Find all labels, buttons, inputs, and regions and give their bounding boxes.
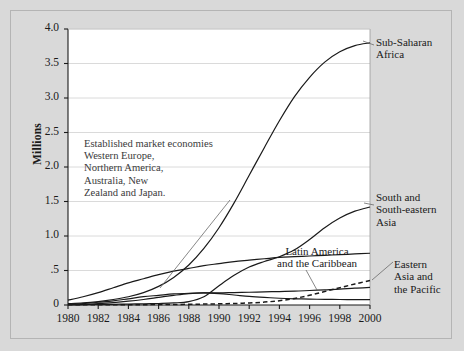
label-eastern-asia-line-2: Asia and [394,270,441,282]
y-tick-label: 4.0 [29,21,59,33]
label-eastern-asia-line-1: Eastern [394,258,441,270]
label-south-asia-line-3: Asia [376,216,436,228]
y-tick-label: 1.0 [29,228,59,240]
x-tick-label: 2000 [350,312,390,324]
label-south-asia-line-2: South-eastern [376,203,436,215]
y-tick-label: 0 [29,297,59,309]
y-tick-label: 3.5 [29,56,59,68]
series-label-latin-america-and-the-caribbean: Latin Americaand the Caribbean [277,245,357,270]
label-sub-saharan-africa-line-2: Africa [376,48,432,60]
figure-root: Millions 0.51.01.52.02.53.03.54.0 198019… [0,0,464,351]
label-sub-saharan-africa-line-1: Sub-Saharan [376,36,432,48]
annotation-eme-line-3: Northern America, [84,162,213,174]
label-south-asia-line-1: South and [376,191,436,203]
series-label-south-and-south-eastern-asia: South andSouth-easternAsia [376,191,436,228]
label-eastern-asia-line-3: the Pacific [394,283,441,295]
y-tick-label: .5 [29,263,59,275]
annotation-eme-line-2: Western Europe, [84,150,213,162]
y-tick-label: 2.0 [29,159,59,171]
y-tick-label: 2.5 [29,125,59,137]
annotation-eme-line-5: Zealand and Japan. [84,187,213,199]
annotation-eme-line-4: Australia, New [84,175,213,187]
label-latin-america-line-1: Latin America [277,245,357,257]
leader-line-eastern-asia [372,262,393,280]
series-label-eastern-asia-and-the-pacific: EasternAsia andthe Pacific [394,258,441,295]
label-latin-america-line-2: and the Caribbean [277,257,357,269]
y-tick-label: 3.0 [29,90,59,102]
y-tick-label: 1.5 [29,194,59,206]
annotation-established-market-economies: Established market economiesWestern Euro… [84,138,213,199]
series-label-sub-saharan-africa: Sub-SaharanAfrica [376,36,432,61]
annotation-eme-line-1: Established market economies [84,138,213,150]
y-axis-title: Millions [31,99,43,189]
